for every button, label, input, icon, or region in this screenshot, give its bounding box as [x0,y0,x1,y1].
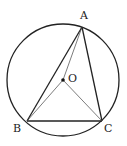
segment-oc [63,80,102,121]
label-o: O [68,72,77,85]
label-a: A [79,9,89,22]
geometry-diagram: A B C O [0,0,127,146]
label-c: C [104,122,112,135]
radii [27,27,102,121]
segment-ca [82,27,102,121]
center-point [61,78,65,82]
segment-ob [27,80,63,121]
triangle-abc [27,27,102,121]
label-b: B [13,122,21,135]
